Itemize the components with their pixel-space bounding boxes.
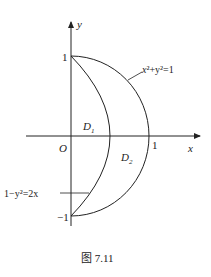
circle-label: x²+y²=1 xyxy=(141,64,174,75)
y-axis-label: y xyxy=(76,18,82,30)
tick-y-top: 1 xyxy=(62,51,68,63)
region-d1-label: D1 xyxy=(82,120,94,135)
tick-y-bottom: −1 xyxy=(57,211,69,223)
circle-leader xyxy=(128,72,142,80)
region-d2-label: D2 xyxy=(120,151,133,166)
figure-7-11: y x O 1 −1 1 x²+y²=1 1−y²=2x D1 D2 图 7.1… xyxy=(0,0,211,277)
parabola-label: 1−y²=2x xyxy=(4,188,38,199)
origin-label: O xyxy=(59,142,67,154)
x-axis-label: x xyxy=(187,142,193,154)
tick-x-right: 1 xyxy=(152,139,158,151)
figure-caption: 图 7.11 xyxy=(81,252,114,264)
